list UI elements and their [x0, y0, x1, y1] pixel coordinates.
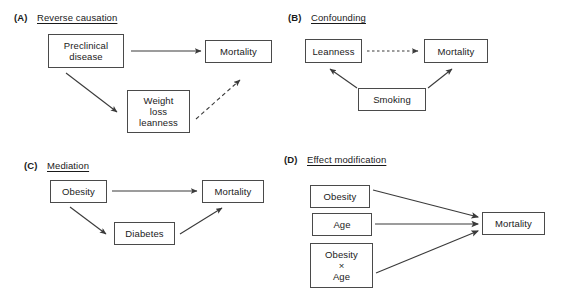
- edge-d-obesity-to-mortality: [373, 190, 478, 217]
- node-preclinical-disease-label: Preclinical disease: [49, 40, 123, 62]
- edge-a-preclinical-to-weightloss: [66, 73, 117, 112]
- panel-c-label: (C): [24, 160, 38, 171]
- causal-diagram-figure: (A) Reverse causation Preclinical diseas…: [0, 0, 567, 301]
- panel-d-label: (D): [284, 154, 298, 165]
- edge-b-smoking-to-leanness: [330, 69, 357, 88]
- panel-a-label: (A): [14, 12, 28, 23]
- edge-c-diabetes-to-mortality: [180, 208, 222, 234]
- node-weight-loss-leanness[interactable]: Weight loss leanness: [127, 90, 190, 133]
- edge-a-weightloss-to-mortality-dashed: [196, 80, 240, 119]
- node-weight-loss-leanness-label: Weight loss leanness: [128, 95, 189, 128]
- node-b-smoking[interactable]: Smoking: [358, 88, 426, 111]
- node-b-smoking-label: Smoking: [359, 94, 425, 105]
- node-d-obesity[interactable]: Obesity: [310, 185, 370, 208]
- node-c-mortality-label: Mortality: [203, 186, 263, 197]
- node-preclinical-disease[interactable]: Preclinical disease: [48, 34, 124, 68]
- node-b-leanness-label: Leanness: [306, 46, 361, 57]
- panel-c-title: Mediation: [47, 160, 89, 171]
- node-c-obesity-label: Obesity: [51, 186, 106, 197]
- edge-c-obesity-to-diabetes: [70, 207, 106, 234]
- node-d-obesity-x-age[interactable]: Obesity × Age: [310, 243, 373, 288]
- node-a-mortality[interactable]: Mortality: [205, 40, 272, 63]
- node-d-obesity-x-age-label: Obesity × Age: [311, 249, 372, 282]
- node-c-diabetes-label: Diabetes: [115, 228, 174, 239]
- node-c-obesity[interactable]: Obesity: [50, 180, 107, 203]
- edge-d-obesity-x-age-to-mortality: [376, 231, 478, 273]
- panel-d-title: Effect modification: [307, 154, 386, 165]
- node-d-age[interactable]: Age: [312, 213, 372, 236]
- node-a-mortality-label: Mortality: [206, 46, 271, 57]
- node-d-age-label: Age: [313, 219, 371, 230]
- node-d-mortality[interactable]: Mortality: [482, 212, 545, 235]
- panel-a-title: Reverse causation: [37, 12, 117, 23]
- node-d-obesity-label: Obesity: [311, 191, 369, 202]
- panel-b-title: Confounding: [311, 12, 366, 23]
- panel-b-label: (B): [288, 12, 302, 23]
- node-c-mortality[interactable]: Mortality: [202, 180, 264, 203]
- node-b-mortality[interactable]: Mortality: [424, 39, 488, 63]
- node-d-mortality-label: Mortality: [483, 218, 544, 229]
- node-c-diabetes[interactable]: Diabetes: [114, 222, 175, 245]
- node-b-mortality-label: Mortality: [425, 46, 487, 57]
- edge-b-smoking-to-mortality: [428, 69, 452, 88]
- node-b-leanness[interactable]: Leanness: [305, 39, 362, 63]
